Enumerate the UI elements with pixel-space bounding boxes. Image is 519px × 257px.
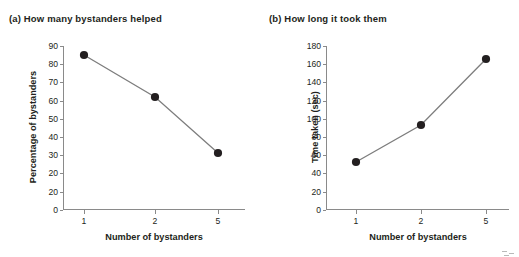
panel-a-x-axis-title: Number of bystanders: [105, 232, 203, 242]
panel-a-xtick-0: [84, 210, 85, 214]
panel-b-xtick-2: [486, 210, 487, 214]
panel-a-ytick-label-8: 20: [37, 187, 58, 197]
panel-b-xtick-label-0: 1: [346, 216, 366, 226]
panel-b: (b) How long it took them 180 160 140 12…: [259, 0, 518, 257]
panel-b-ytick-label-0: 180: [298, 41, 321, 51]
panel-b-ytick-label-8: 20: [298, 187, 321, 197]
panel-a-xtick-label-0: 1: [74, 216, 94, 226]
panel-a-ytick-label-1: 80: [37, 59, 58, 69]
panel-a: (a) How many bystanders helped 90 80 70 …: [0, 0, 259, 257]
panel-b-series: [326, 46, 509, 210]
panel-a-xtick-2: [218, 210, 219, 214]
panel-a-ytick-label-6: 30: [37, 150, 58, 160]
panel-a-y-axis-title: Percentage of bystanders: [28, 67, 38, 187]
panel-a-point-1: [80, 51, 88, 59]
panel-a-xtick-label-2: 5: [208, 216, 228, 226]
panel-b-xtick-0: [356, 210, 357, 214]
panel-b-point-1: [352, 158, 360, 166]
panel-b-xtick-label-2: 5: [476, 216, 496, 226]
figure-two-panel-line-charts: (a) How many bystanders helped 90 80 70 …: [0, 0, 519, 257]
panel-a-plot-area: 90 80 70 60 50 40 30 20 20 0 1 2: [63, 46, 245, 210]
panel-b-xtick-label-1: 2: [411, 216, 431, 226]
panel-a-point-5: [214, 149, 222, 157]
panel-b-x-axis-title: Number of bystanders: [369, 232, 467, 242]
panel-b-xtick-1: [421, 210, 422, 214]
panel-b-series-line: [356, 59, 486, 162]
panel-a-xtick-label-1: 2: [145, 216, 165, 226]
panel-b-title: (b) How long it took them: [269, 13, 387, 24]
panel-a-ytick-label-4: 50: [37, 114, 58, 124]
panel-a-xtick-1: [155, 210, 156, 214]
panel-a-ytick-label-3: 60: [37, 96, 58, 106]
panel-b-ytick-label-9: 0: [298, 205, 321, 215]
panel-a-ytick-label-9: 0: [37, 205, 58, 215]
panel-b-point-2: [417, 121, 425, 129]
panel-a-ytick-label-2: 70: [37, 77, 58, 87]
page-corner-mark: [502, 251, 516, 256]
panel-b-y-axis-title: Time taken (sec): [310, 67, 320, 187]
panel-a-ytick-label-7: 20: [37, 168, 58, 178]
panel-b-plot-area: 180 160 140 120 100 80 60 40 20 0 1 2: [326, 46, 509, 210]
panel-a-series-line: [84, 55, 218, 153]
panel-a-ytick-label-5: 40: [37, 132, 58, 142]
panel-a-series: [63, 46, 245, 210]
panel-a-title: (a) How many bystanders helped: [9, 13, 162, 24]
panel-a-point-2: [151, 93, 159, 101]
panel-b-point-5: [482, 55, 490, 63]
panel-a-ytick-label-0: 90: [37, 41, 58, 51]
